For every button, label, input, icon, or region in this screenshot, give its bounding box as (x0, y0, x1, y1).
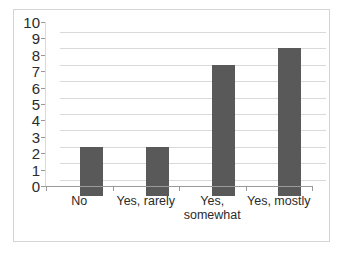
y-axis-tick-mark (41, 153, 45, 154)
y-axis-tick-label: 0 (16, 179, 40, 194)
y-axis-tick-mark (41, 186, 45, 187)
x-axis-category-label: Yes,somewhat (179, 194, 246, 222)
x-axis-category-label: Yes, mostly (246, 194, 313, 208)
x-axis-tick-mark (179, 186, 180, 191)
y-axis-tick-mark (41, 120, 45, 121)
y-axis-tick-label: 3 (16, 130, 40, 145)
bar-no (80, 147, 103, 196)
y-axis-tick-label: 10 (16, 15, 40, 30)
x-axis-category-label: Yes, rarely (113, 194, 180, 208)
bar-yes-rarely (146, 147, 169, 196)
y-axis-tick-label: 1 (16, 163, 40, 178)
x-axis-category-line: Yes, mostly (246, 194, 313, 208)
y-axis-tick-mark (41, 55, 45, 56)
x-axis-category-line: Yes, (179, 194, 246, 208)
x-axis-labels: NoYes, rarelyYes,somewhatYes, mostly (46, 194, 312, 244)
y-axis-tick-label: 9 (16, 31, 40, 46)
y-axis-tick-mark (41, 88, 45, 89)
y-axis-line (45, 22, 46, 187)
y-axis-tick-mark (41, 71, 45, 72)
y-axis-tick-label: 8 (16, 48, 40, 63)
y-axis-tick-label: 5 (16, 97, 40, 112)
y-axis-tick-label: 6 (16, 81, 40, 96)
bar-yes-somewhat (212, 65, 235, 196)
x-axis-tick-mark (312, 186, 313, 191)
x-axis-tick-mark (246, 186, 247, 191)
y-axis-tick-mark (41, 22, 45, 23)
plot-area (60, 32, 326, 196)
y-axis-labels: 012345678910 (16, 0, 40, 255)
bar-yes-mostly (278, 48, 301, 196)
gridline-10 (60, 32, 326, 33)
x-axis-category-line: No (46, 194, 113, 208)
y-axis-tick-mark (41, 38, 45, 39)
y-axis-tick-mark (41, 170, 45, 171)
y-axis-tick-label: 7 (16, 64, 40, 79)
y-axis-tick-label: 4 (16, 113, 40, 128)
x-axis-category-line: somewhat (179, 208, 246, 222)
x-axis-category-label: No (46, 194, 113, 208)
x-axis-tick-mark (113, 186, 114, 191)
x-axis-tick-mark (46, 186, 47, 191)
y-axis-tick-mark (41, 137, 45, 138)
x-axis-category-line: Yes, rarely (113, 194, 180, 208)
y-axis-tick-label: 2 (16, 146, 40, 161)
y-axis-tick-mark (41, 104, 45, 105)
